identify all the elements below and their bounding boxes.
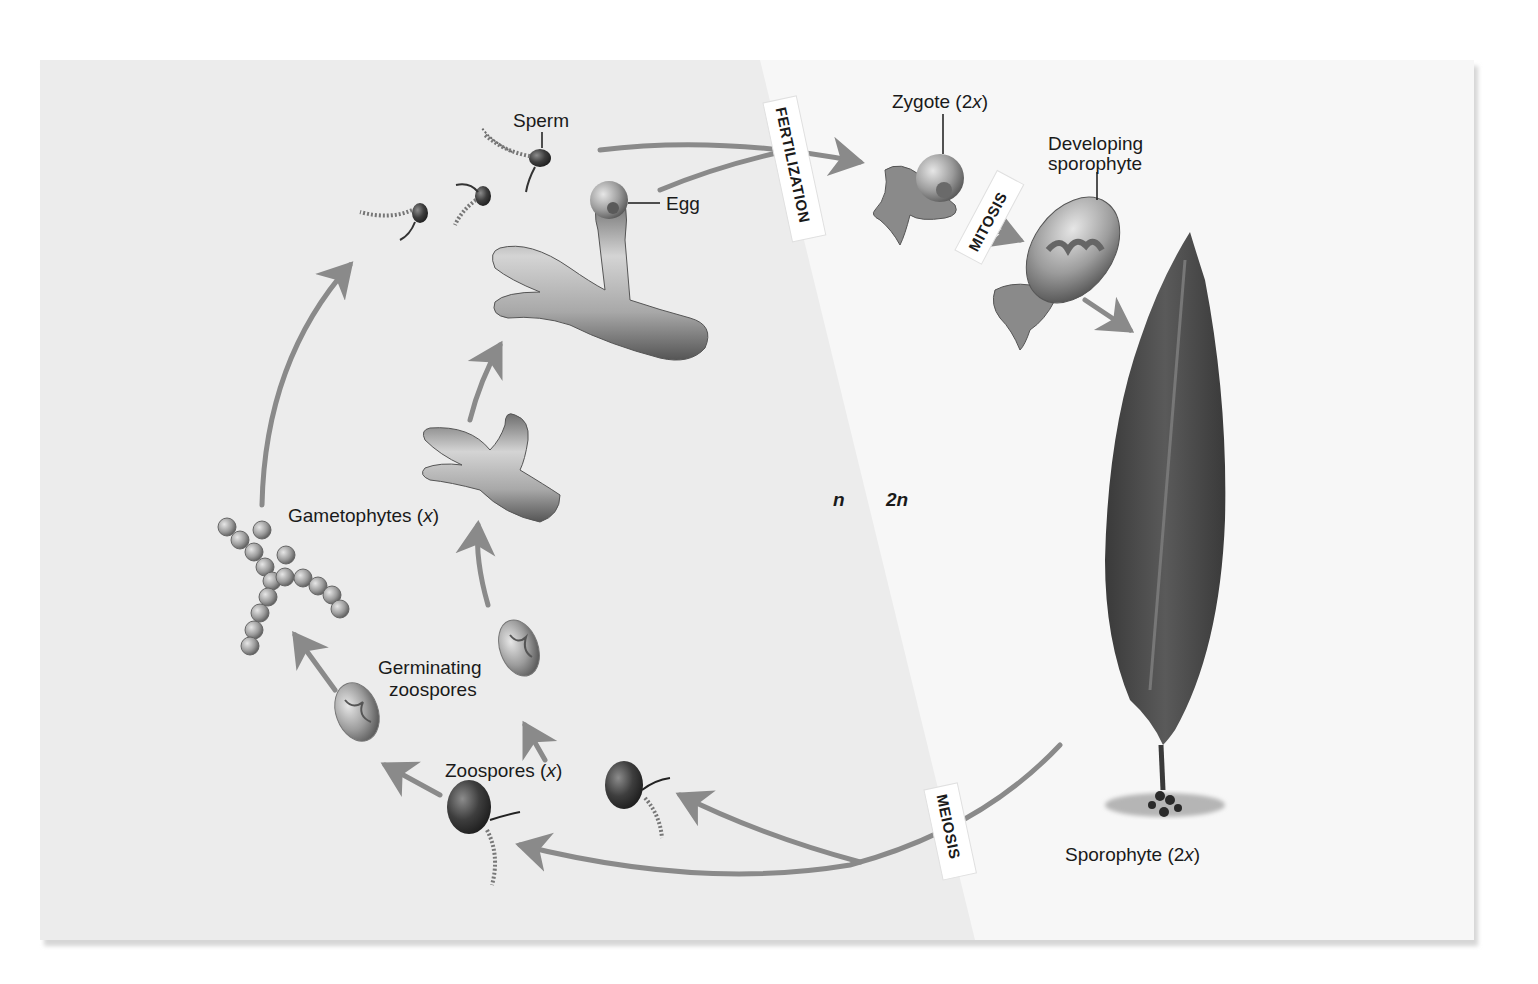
label-sporophyte: Sporophyte (2x) [1065,844,1200,865]
egg-cell [590,181,628,219]
label-sperm: Sperm [513,110,569,131]
panel-background [40,60,1478,946]
label-developing-1: Developing [1048,133,1143,154]
diploid-marker: 2n [885,489,908,510]
label-germinating-2: zoospores [389,679,477,700]
label-zoospores: Zoospores (x) [445,760,562,781]
label-germinating-1: Germinating [378,657,482,678]
label-egg: Egg [666,193,700,214]
haploid-marker: n [833,489,845,510]
label-zygote: Zygote (2x) [892,91,988,112]
label-developing-2: sporophyte [1048,153,1142,174]
life-cycle-diagram: n 2n Sperm Egg [0,0,1538,984]
label-gametophytes: Gametophytes (x) [288,505,439,526]
